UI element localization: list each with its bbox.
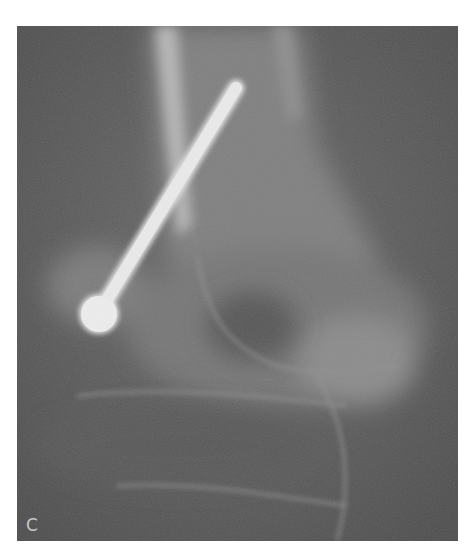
panel-label: C bbox=[26, 515, 38, 535]
xray-graphic bbox=[17, 26, 458, 541]
xray-image: C bbox=[17, 26, 458, 541]
